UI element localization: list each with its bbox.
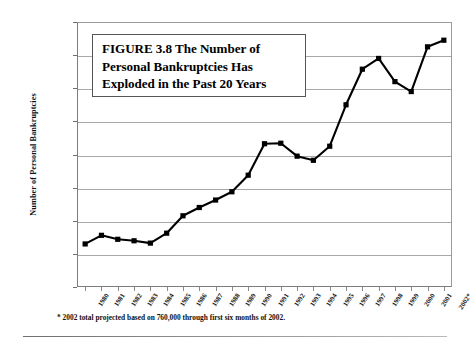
data-point-marker (213, 197, 218, 202)
data-point-marker (311, 158, 316, 163)
x-axis-tick-label: 1988 (227, 292, 241, 308)
data-point-marker (197, 205, 202, 210)
data-point-marker (115, 237, 120, 242)
x-axis-tick-label: 2000 (423, 292, 437, 308)
x-axis-tick-label: 1984 (162, 292, 176, 308)
x-axis-tick-mark (150, 287, 151, 291)
x-axis-tick-mark (216, 287, 217, 291)
data-point-marker (392, 79, 397, 84)
figure-footnote: * 2002 total projected based on 760,000 … (57, 313, 285, 322)
x-axis-tick-label: 1985 (178, 292, 192, 308)
x-axis-tick-mark (183, 287, 184, 291)
data-point-marker (278, 141, 283, 146)
data-point-marker (164, 231, 169, 236)
figure-title-line-3: Exploded in the Past 20 Years (102, 75, 298, 93)
x-axis-tick-label: 1995 (341, 292, 355, 308)
data-point-marker (376, 56, 381, 61)
x-axis-tick-label: 1986 (194, 292, 208, 308)
x-axis-tick-label: 1982 (129, 292, 143, 308)
x-axis-tick-label: 1981 (113, 292, 127, 308)
data-point-marker (148, 241, 153, 246)
x-axis-tick-label: 1994 (325, 292, 339, 308)
x-axis-tick-mark (444, 287, 445, 291)
x-axis-tick-mark (232, 287, 233, 291)
x-axis-tick-mark (134, 287, 135, 291)
x-axis-tick-label: 1983 (145, 292, 159, 308)
data-point-marker (229, 189, 234, 194)
x-axis-tick-mark (362, 287, 363, 291)
x-axis-tick-mark (297, 287, 298, 291)
data-point-marker (295, 154, 300, 159)
x-axis-tick-mark (313, 287, 314, 291)
data-point-marker (246, 173, 251, 178)
x-axis-tick-mark (281, 287, 282, 291)
data-point-marker (441, 38, 446, 43)
data-point-marker (131, 238, 136, 243)
figure-title-line-2: Personal Bankruptcies Has (102, 58, 298, 76)
data-point-marker (180, 213, 185, 218)
data-point-marker (360, 67, 365, 72)
data-point-marker (327, 144, 332, 149)
data-point-marker (343, 102, 348, 107)
figure-container: Number of Personal Bankruptcies 1,600,00… (0, 0, 473, 344)
figure-title-box: FIGURE 3.8 The Number of Personal Bankru… (92, 34, 306, 97)
bottom-divider (23, 336, 447, 337)
x-axis-tick-label: 2001 (439, 292, 453, 308)
x-axis-tick-mark (265, 287, 266, 291)
x-axis-tick-mark (118, 287, 119, 291)
x-axis-tick-mark (248, 287, 249, 291)
x-axis-tick-mark (330, 287, 331, 291)
data-point-marker (409, 89, 414, 94)
x-axis-tick-mark (379, 287, 380, 291)
x-axis-tick-label: 2002* (457, 292, 473, 311)
x-axis-tick-label: 1997 (374, 292, 388, 308)
figure-title-line-1: FIGURE 3.8 The Number of (102, 40, 298, 58)
y-axis-tick-mark (73, 287, 77, 288)
data-point-marker (99, 233, 104, 238)
x-axis-tick-label: 1990 (260, 292, 274, 308)
data-point-marker (83, 241, 88, 246)
x-axis-tick-label: 1980 (97, 292, 111, 308)
x-axis-tick-label: 1996 (357, 292, 371, 308)
x-axis-tick-mark (101, 287, 102, 291)
x-axis-tick-label: 1999 (406, 292, 420, 308)
x-axis-tick-mark (199, 287, 200, 291)
x-axis-tick-label: 1998 (390, 292, 404, 308)
x-axis-tick-label: 1987 (211, 292, 225, 308)
data-point-marker (425, 44, 430, 49)
x-axis-tick-label: 1993 (308, 292, 322, 308)
x-axis-tick-mark (346, 287, 347, 291)
x-axis-tick-mark (411, 287, 412, 291)
x-axis-tick-mark (428, 287, 429, 291)
x-axis-tick-label: 1991 (276, 292, 290, 308)
x-axis-tick-label: 1992 (292, 292, 306, 308)
x-axis-tick-mark (167, 287, 168, 291)
x-axis-tick-mark (85, 287, 86, 291)
y-axis-title: Number of Personal Bankruptcies (29, 60, 38, 250)
x-axis-tick-mark (395, 287, 396, 291)
data-point-marker (262, 141, 267, 146)
x-axis-tick-label: 1989 (243, 292, 257, 308)
